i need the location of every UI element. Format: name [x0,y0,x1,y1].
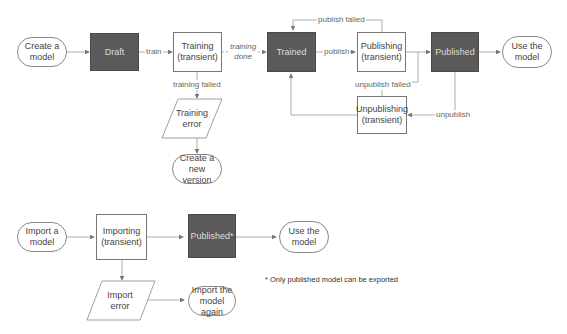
importing-state: Importing (transient) [96,214,147,260]
edge-label-unpublish: unpublish [435,110,471,120]
published-star-state: Published* [188,214,236,258]
training-error-label: Training error [176,108,208,130]
use-model-label: Use the model [511,41,542,63]
edge-label-publish: publish [323,47,350,57]
use-model-label-2: Use the model [288,226,319,248]
trained-state: Trained [267,32,316,72]
edge-label-publish-failed: publish failed [317,15,366,25]
draft-label: Draft [105,47,125,58]
use-model-terminal-2: Use the model [279,221,329,253]
create-new-version-label: Create a new version [173,153,221,186]
create-model-label: Create a model [25,41,60,63]
publishing-label: Publishing (transient) [361,41,403,63]
trained-label: Trained [276,47,306,58]
import-error-label: Import error [107,290,133,312]
edge-label-unpublish-failed: unpublish failed [354,80,412,90]
import-error: Import error [92,281,148,320]
draft-state: Draft [90,33,139,71]
edge-label-training-done: training done [229,42,257,62]
edge-label-training-failed: training failed [172,80,222,90]
importing-label: Importing (transient) [101,226,142,248]
training-label: Training (transient) [177,41,218,63]
published-state: Published [431,32,479,72]
use-model-terminal: Use the model [502,36,552,68]
edge-label-train: train [145,47,163,57]
import-model-terminal: Import a model [17,222,67,252]
unpublishing-label: Unpublishing (transient) [356,104,408,126]
import-again-terminal: Import the model again [188,286,236,316]
published-label: Published [435,47,475,58]
publishing-state: Publishing (transient) [357,32,406,72]
unpublishing-state: Unpublishing (transient) [357,96,407,134]
import-again-label: Import the model again [189,285,235,318]
footnote: * Only published model can be exported [265,275,398,284]
published-star-label: Published* [190,231,233,242]
training-state: Training (transient) [173,32,222,72]
import-model-label: Import a model [25,226,58,248]
training-error: Training error [168,100,216,138]
lifecycle-diagram: Create a model Draft Training (transient… [0,0,567,334]
create-model-terminal: Create a model [17,37,67,67]
create-new-version-terminal: Create a new version [172,154,222,184]
